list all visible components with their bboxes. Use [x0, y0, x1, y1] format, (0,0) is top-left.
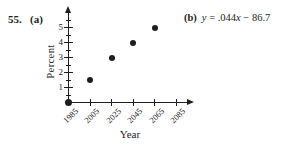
y-tick-label: 3	[44, 52, 63, 63]
x-tick-mark	[154, 99, 155, 106]
textbook-figure: 55. (a) (b) y = .044x − 86.7 Percent Yea…	[0, 0, 302, 145]
x-tick-mark	[90, 99, 91, 106]
data-point	[130, 40, 136, 46]
x-tick-mark	[176, 99, 177, 106]
data-point	[109, 55, 115, 61]
y-axis-arrow-icon	[65, 6, 71, 13]
y-tick-mark	[64, 87, 73, 88]
data-point	[87, 77, 93, 83]
data-point	[152, 25, 158, 31]
x-axis-arrow-icon	[187, 99, 194, 105]
x-tick-mark	[133, 99, 134, 106]
y-tick-label: 2	[44, 67, 63, 78]
y-tick-mark	[64, 42, 73, 43]
x-tick-mark	[111, 99, 112, 106]
x-axis	[68, 102, 188, 103]
y-tick-mark	[64, 27, 73, 28]
x-tick-label: 1985	[60, 106, 79, 125]
y-tick-mark	[64, 57, 73, 58]
x-tick-label: 2045	[125, 106, 144, 125]
x-tick-label: 2005	[82, 106, 101, 125]
x-tick-label: 2025	[103, 106, 122, 125]
x-tick-label: 2085	[168, 106, 187, 125]
scatter-plot: Percent Year 198520052025204520652085123…	[0, 0, 302, 145]
y-minor-tick-mark	[66, 95, 71, 96]
data-point	[65, 99, 72, 106]
y-minor-tick-mark	[66, 20, 71, 21]
y-tick-label: 5	[44, 22, 63, 33]
x-axis-title: Year	[111, 128, 149, 140]
y-tick-label: 1	[44, 82, 63, 93]
y-tick-label: 4	[44, 37, 63, 48]
x-tick-label: 2065	[146, 106, 165, 125]
y-tick-mark	[64, 72, 73, 73]
y-minor-tick-mark	[66, 80, 71, 81]
y-minor-tick-mark	[66, 50, 71, 51]
y-minor-tick-mark	[66, 35, 71, 36]
y-minor-tick-mark	[66, 65, 71, 66]
